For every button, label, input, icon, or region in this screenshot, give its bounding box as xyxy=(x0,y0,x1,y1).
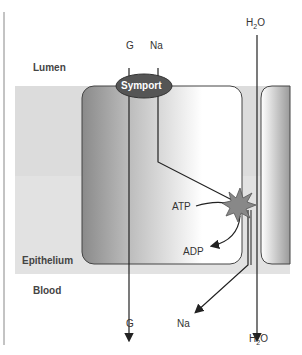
water-top-label: H2O xyxy=(246,17,265,30)
epithelium-label: Epithelium xyxy=(22,255,73,266)
glucose-top-label: G xyxy=(126,40,134,51)
sodium-top-label: Na xyxy=(150,40,163,51)
epithelial-cell xyxy=(82,86,242,264)
symport-label: Symport xyxy=(121,80,162,91)
lumen-label: Lumen xyxy=(33,62,66,73)
water-bottom-label: H2O xyxy=(249,333,268,346)
adjacent-cell xyxy=(261,86,290,264)
adp-label: ADP xyxy=(183,246,204,257)
diagram-canvas xyxy=(0,0,302,355)
glucose-bottom-label: G xyxy=(126,318,134,329)
sodium-bottom-label: Na xyxy=(177,318,190,329)
blood-label: Blood xyxy=(33,285,61,296)
atp-label: ATP xyxy=(172,201,191,212)
